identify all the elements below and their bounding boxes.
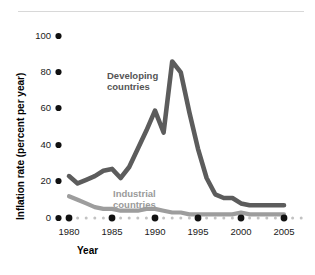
y-tick-label-40: 40: [40, 139, 51, 150]
series-line-developing-countries: [69, 62, 284, 206]
series-annotation-industrial: Industrial countries: [113, 188, 156, 210]
x-axis-title: Year: [77, 245, 98, 256]
x-tick-label-1985: 1985: [101, 226, 122, 237]
y-tick-dot-60: [55, 105, 61, 111]
x-tick-dot-2005: [281, 215, 288, 222]
y-tick-label-20: 20: [40, 175, 51, 186]
y-tick-dot-20: [55, 178, 61, 184]
x-tick-label-1995: 1995: [187, 226, 208, 237]
x-tick-dot-1980: [66, 215, 73, 222]
y-tick-label-100: 100: [35, 30, 51, 41]
x-tick-dot-1990: [152, 215, 159, 222]
y-tick-label-0: 0: [46, 212, 51, 223]
x-tick-dot-2000: [238, 215, 245, 222]
y-tick-dot-80: [55, 69, 61, 75]
series-annotation-developing: Developing countries: [107, 70, 158, 92]
y-tick-dot-0: [55, 215, 61, 221]
y-tick-label-80: 80: [40, 66, 51, 77]
x-axis-tick-labels: 1980 1985 1990 1995 2000 2005: [58, 226, 294, 237]
x-tick-label-2005: 2005: [273, 226, 294, 237]
x-tick-label-1980: 1980: [58, 226, 79, 237]
series-annotation-industrial-line2: countries: [113, 199, 156, 210]
y-axis-tick-labels: 100 80 60 40 20 0: [35, 30, 51, 223]
x-tick-dot-1995: [195, 215, 202, 222]
x-tick-label-1990: 1990: [144, 226, 165, 237]
y-tick-label-60: 60: [40, 102, 51, 113]
inflation-line-chart: 100 80 60 40 20 0 Inflation rate (percen…: [0, 0, 315, 275]
x-tick-dot-1985: [109, 215, 116, 222]
y-axis-tick-dots: [55, 33, 61, 221]
y-tick-dot-100: [55, 33, 61, 39]
y-tick-dot-40: [55, 142, 61, 148]
y-axis-title: Inflation rate (percent per year): [15, 73, 26, 220]
x-tick-label-2000: 2000: [230, 226, 251, 237]
series-annotation-industrial-line1: Industrial: [113, 188, 156, 199]
series-annotation-developing-line1: Developing: [107, 70, 158, 81]
series-annotation-developing-line2: countries: [107, 81, 150, 92]
chart-figure: 100 80 60 40 20 0 Inflation rate (percen…: [0, 0, 315, 275]
